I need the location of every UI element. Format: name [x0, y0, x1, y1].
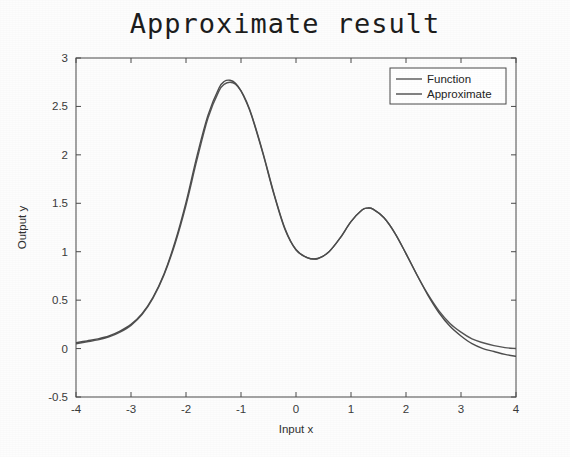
- y-tick-label: 1.5: [52, 197, 68, 209]
- x-axis-title: Input x: [279, 423, 314, 435]
- y-tick-label: -0.5: [48, 391, 68, 403]
- x-tick-label: 3: [458, 403, 464, 415]
- x-tick-label: -1: [236, 403, 246, 415]
- figure-canvas: Approximate result -4-3-2-101234-0.500.5…: [0, 0, 570, 457]
- series-line-0: [76, 82, 516, 348]
- x-tick-label: 2: [403, 403, 409, 415]
- x-tick-label: 0: [293, 403, 299, 415]
- x-tick-label: -4: [71, 403, 82, 415]
- x-tick-label: 4: [513, 403, 520, 415]
- axes-box: [76, 58, 516, 397]
- y-axis-title: Output y: [16, 206, 28, 250]
- plot-area: -4-3-2-101234-0.500.511.522.53Input xOut…: [0, 0, 570, 457]
- legend: FunctionApproximate: [390, 68, 506, 104]
- x-tick-label: 1: [348, 403, 354, 415]
- legend-label-0: Function: [427, 73, 471, 85]
- x-tick-label: -2: [181, 403, 191, 415]
- y-tick-label: 3: [62, 52, 68, 64]
- y-tick-label: 1: [62, 246, 68, 258]
- y-tick-label: 2.5: [52, 100, 68, 112]
- y-tick-label: 0.5: [52, 294, 68, 306]
- series-group: [76, 80, 516, 356]
- y-tick-label: 2: [62, 149, 68, 161]
- legend-label-1: Approximate: [427, 88, 492, 100]
- y-tick-label: 0: [62, 343, 68, 355]
- x-tick-label: -3: [126, 403, 136, 415]
